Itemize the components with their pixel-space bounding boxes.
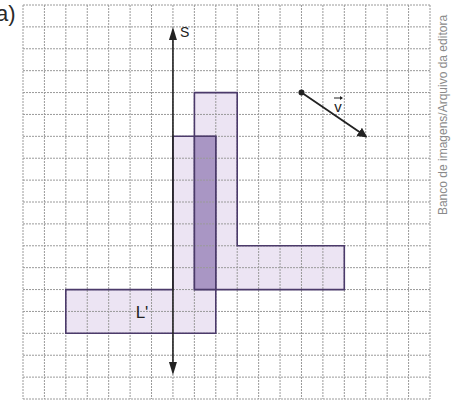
vector-v — [298, 90, 365, 137]
vector-label: v — [334, 98, 342, 115]
shape-L-prime-label: L' — [136, 303, 149, 322]
shape-L-fill — [194, 93, 344, 290]
arrow-down-icon — [169, 362, 177, 375]
overlap-region — [194, 136, 215, 289]
image-credit: Banco de imagens/Arquivo da editora — [436, 15, 450, 215]
arrow-up-icon — [169, 27, 177, 40]
grid-diagram: SvL' — [0, 0, 459, 403]
shapes-layer — [66, 93, 345, 334]
axis-label: S — [180, 24, 189, 40]
